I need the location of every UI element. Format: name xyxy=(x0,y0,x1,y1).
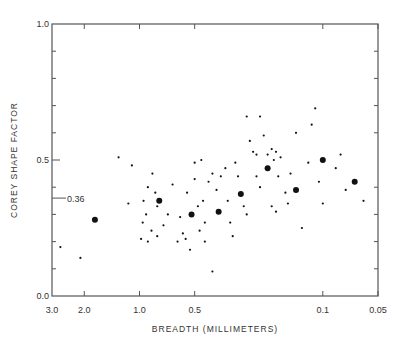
y-axis-ticks: 0.00.51.0 xyxy=(36,19,378,301)
small-data-point xyxy=(279,156,281,158)
small-data-point xyxy=(246,115,248,117)
small-data-point xyxy=(295,132,297,134)
small-data-point xyxy=(202,200,204,202)
small-data-point xyxy=(140,238,142,240)
small-data-point xyxy=(234,162,236,164)
small-data-point xyxy=(182,232,184,234)
x-tick-label: 0.1 xyxy=(317,305,330,315)
x-tick-label: 2.0 xyxy=(78,305,91,315)
reference-annotation-0.36: 0.36 xyxy=(52,194,85,204)
small-data-point xyxy=(275,151,277,153)
small-data-point xyxy=(339,153,341,155)
small-data-point xyxy=(284,192,286,194)
small-data-point xyxy=(154,192,156,194)
small-data-point xyxy=(197,205,199,207)
small-data-point xyxy=(259,115,261,117)
large-data-point xyxy=(265,165,271,171)
small-data-point xyxy=(211,173,213,175)
small-data-point xyxy=(237,175,239,177)
large-data-point xyxy=(293,187,299,193)
small-data-point xyxy=(311,124,313,126)
small-data-point xyxy=(131,164,133,166)
small-data-point xyxy=(215,189,217,191)
x-axis-title: BREADTH (MILLIMETERS) xyxy=(152,324,278,334)
large-data-point xyxy=(216,209,222,215)
small-data-point xyxy=(194,162,196,164)
small-data-point xyxy=(277,175,279,177)
small-data-point xyxy=(229,221,231,223)
small-data-point xyxy=(200,159,202,161)
small-data-point xyxy=(151,173,153,175)
small-data-point xyxy=(204,241,206,243)
small-data-point xyxy=(273,159,275,161)
small-data-point xyxy=(207,181,209,183)
x-axis-ticks: 3.02.01.00.50.10.05 xyxy=(46,24,387,315)
small-data-point xyxy=(271,148,273,150)
small-data-point xyxy=(255,175,257,177)
y-tick-label: 0.5 xyxy=(36,155,49,165)
small-data-point xyxy=(243,205,245,207)
small-data-point xyxy=(127,202,129,204)
small-data-points xyxy=(59,107,364,272)
reference-label: 0.36 xyxy=(67,194,85,204)
small-data-point xyxy=(185,238,187,240)
small-data-point xyxy=(167,213,169,215)
small-data-point xyxy=(147,186,149,188)
x-tick-label: 1.0 xyxy=(133,305,146,315)
small-data-point xyxy=(249,140,251,142)
small-data-point xyxy=(362,200,364,202)
small-data-point xyxy=(156,205,158,207)
x-tick-label: 0.05 xyxy=(369,305,387,315)
x-tick-label: 3.0 xyxy=(46,305,59,315)
small-data-point xyxy=(289,173,291,175)
small-data-point xyxy=(189,249,191,251)
y-tick-label: 1.0 xyxy=(36,19,49,29)
small-data-point xyxy=(145,213,147,215)
small-data-point xyxy=(171,183,173,185)
small-data-point xyxy=(227,200,229,202)
y-axis-title: COREY SHAPE FACTOR xyxy=(9,102,19,218)
small-data-point xyxy=(194,178,196,180)
small-data-point xyxy=(59,246,61,248)
small-data-point xyxy=(150,230,152,232)
small-data-point xyxy=(211,270,213,272)
small-data-point xyxy=(246,213,248,215)
small-data-point xyxy=(204,221,206,223)
large-data-point xyxy=(92,217,98,223)
x-tick-label: 0.5 xyxy=(188,305,201,315)
small-data-point xyxy=(322,202,324,204)
small-data-point xyxy=(301,227,303,229)
large-data-point xyxy=(352,179,358,185)
small-data-point xyxy=(232,235,234,237)
small-data-point xyxy=(345,189,347,191)
small-data-point xyxy=(263,134,265,136)
small-data-point xyxy=(156,235,158,237)
small-data-point xyxy=(271,205,273,207)
small-data-point xyxy=(314,107,316,109)
small-data-point xyxy=(267,153,269,155)
small-data-point xyxy=(275,211,277,213)
large-data-point xyxy=(156,198,162,204)
small-data-point xyxy=(255,153,257,155)
scatter-chart: 3.02.01.00.50.10.05 0.00.51.0 0.36 BREAD… xyxy=(0,0,396,349)
small-data-point xyxy=(117,156,119,158)
small-data-point xyxy=(224,167,226,169)
small-data-point xyxy=(259,186,261,188)
small-data-point xyxy=(147,241,149,243)
small-data-point xyxy=(220,175,222,177)
small-data-point xyxy=(179,216,181,218)
large-data-points xyxy=(92,157,358,223)
small-data-point xyxy=(198,230,200,232)
large-data-point xyxy=(320,157,326,163)
plot-frame xyxy=(52,24,378,296)
small-data-point xyxy=(252,151,254,153)
small-data-point xyxy=(186,192,188,194)
small-data-point xyxy=(142,200,144,202)
small-data-point xyxy=(79,257,81,259)
small-data-point xyxy=(318,181,320,183)
small-data-point xyxy=(287,202,289,204)
large-data-point xyxy=(238,191,244,197)
small-data-point xyxy=(142,221,144,223)
y-tick-label: 0.0 xyxy=(36,291,49,301)
small-data-point xyxy=(176,241,178,243)
